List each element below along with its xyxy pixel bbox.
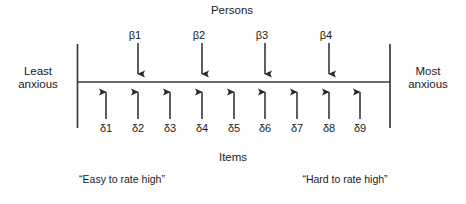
item-label-delta4: δ4: [196, 122, 208, 134]
item-label-delta6: δ6: [259, 122, 271, 134]
item-label-delta7: δ7: [291, 122, 303, 134]
least-anxious-caption: Leastanxious: [18, 65, 58, 91]
most-anxious-line1: Most: [416, 65, 441, 77]
most-anxious-line2: anxious: [408, 78, 448, 90]
easy-to-rate-high-annotation: “Easy to rate high”: [79, 174, 165, 186]
axis-and-arrows-graphic: [0, 0, 466, 204]
item-label-delta3: δ3: [164, 122, 176, 134]
least-anxious-line1: Least: [24, 65, 52, 77]
person-label-beta2: β2: [193, 29, 205, 41]
items-title: Items: [219, 151, 247, 164]
item-label-delta2: δ2: [132, 122, 144, 134]
most-anxious-caption: Mostanxious: [408, 65, 448, 91]
item-label-delta9: δ9: [354, 122, 366, 134]
person-label-beta3: β3: [256, 29, 268, 41]
latent-trait-continuum-figure: Persons Items Leastanxious Mostanxious “…: [0, 0, 466, 204]
item-label-delta1: δ1: [100, 122, 112, 134]
item-arrows-group: [106, 92, 360, 119]
item-label-delta5: δ5: [228, 122, 240, 134]
least-anxious-line2: anxious: [18, 78, 58, 90]
person-arrows-group: [138, 43, 329, 74]
persons-title: Persons: [211, 4, 253, 17]
person-label-beta4: β4: [320, 29, 332, 41]
item-label-delta8: δ8: [323, 122, 335, 134]
person-label-beta1: β1: [129, 29, 141, 41]
hard-to-rate-high-annotation: “Hard to rate high”: [302, 174, 387, 186]
